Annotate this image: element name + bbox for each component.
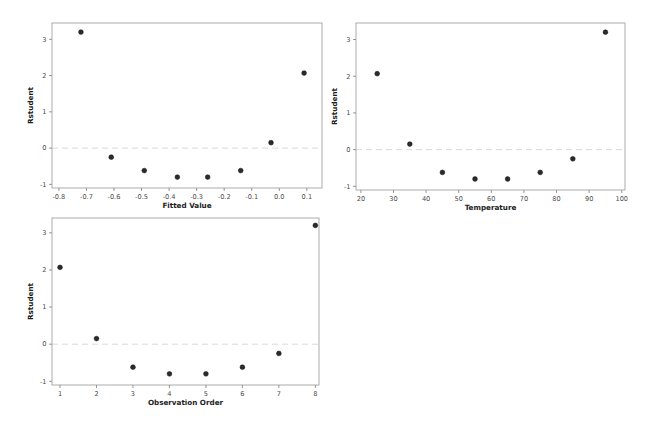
data-point <box>473 177 478 182</box>
x-tick-label: -0.6 <box>108 193 121 201</box>
rstudent-vs-temperature-plot: 2030405060708090100-10123TemperatureRstu… <box>330 23 628 212</box>
y-tick-label: 1 <box>42 108 46 116</box>
data-point <box>94 336 99 341</box>
data-point <box>276 351 281 356</box>
x-tick-label: 8 <box>313 390 317 398</box>
y-tick-label: 3 <box>346 36 350 44</box>
data-point <box>538 170 543 175</box>
x-tick-label: -0.3 <box>190 193 203 201</box>
x-tick-label: -0.4 <box>163 193 176 201</box>
x-axis-label: Temperature <box>465 203 517 212</box>
data-point <box>238 168 243 173</box>
y-tick-label: 3 <box>42 36 46 44</box>
data-point <box>131 365 136 370</box>
y-tick-label: 0 <box>42 144 46 152</box>
x-tick-label: -0.1 <box>245 193 258 201</box>
x-tick-label: 0.1 <box>302 193 313 201</box>
x-tick-label: 1 <box>58 390 62 398</box>
y-tick-label: 1 <box>42 303 46 311</box>
x-tick-label: 90 <box>585 195 593 203</box>
data-point <box>142 168 147 173</box>
scatter-plots-canvas: -0.8-0.7-0.6-0.5-0.4-0.3-0.2-0.10.00.1-1… <box>0 0 648 423</box>
plot-frame <box>356 23 625 190</box>
y-tick-label: 2 <box>42 72 46 80</box>
x-tick-label: 7 <box>277 390 281 398</box>
x-tick-label: 3 <box>131 390 135 398</box>
x-tick-label: 50 <box>455 195 463 203</box>
data-point <box>58 265 63 270</box>
x-tick-label: -0.7 <box>80 193 93 201</box>
rstudent-vs-fitted-value-plot: -0.8-0.7-0.6-0.5-0.4-0.3-0.2-0.10.00.1-1… <box>26 23 322 210</box>
data-point <box>205 175 210 180</box>
y-axis-label: Rstudent <box>26 86 35 124</box>
data-point <box>302 71 307 76</box>
data-point <box>313 223 318 228</box>
rstudent-vs-observation-order-plot: 12345678-10123Observation OrderRstudent <box>26 218 319 407</box>
x-tick-label: 0.0 <box>274 193 285 201</box>
x-tick-label: 5 <box>204 390 208 398</box>
x-tick-label: 100 <box>615 195 628 203</box>
data-point <box>570 156 575 161</box>
y-tick-label: 0 <box>42 340 46 348</box>
data-point <box>505 177 510 182</box>
data-point <box>407 142 412 147</box>
data-point <box>167 371 172 376</box>
x-tick-label: 2 <box>94 390 98 398</box>
y-axis-label: Rstudent <box>26 282 35 320</box>
x-tick-label: 60 <box>487 195 495 203</box>
plot-frame <box>52 218 319 385</box>
x-tick-label: 4 <box>167 390 171 398</box>
x-tick-label: 80 <box>552 195 560 203</box>
x-tick-label: 30 <box>389 195 397 203</box>
x-axis-label: Observation Order <box>148 398 224 407</box>
residual-diagnostics-panel: -0.8-0.7-0.6-0.5-0.4-0.3-0.2-0.10.00.1-1… <box>0 0 648 423</box>
data-point <box>440 170 445 175</box>
x-tick-label: -0.2 <box>218 193 231 201</box>
y-tick-label: 2 <box>346 73 350 81</box>
data-point <box>175 175 180 180</box>
y-tick-label: -1 <box>40 378 47 386</box>
y-tick-label: -1 <box>40 181 47 189</box>
x-tick-label: -0.5 <box>135 193 148 201</box>
data-point <box>269 140 274 145</box>
y-tick-label: 2 <box>42 266 46 274</box>
data-point <box>603 30 608 35</box>
x-axis-label: Fitted Value <box>162 201 211 210</box>
y-tick-label: 1 <box>346 109 350 117</box>
x-tick-label: 6 <box>240 390 244 398</box>
data-point <box>240 365 245 370</box>
data-point <box>109 155 114 160</box>
y-tick-label: 3 <box>42 229 46 237</box>
y-tick-label: -1 <box>344 183 351 191</box>
x-tick-label: -0.8 <box>52 193 65 201</box>
data-point <box>204 371 209 376</box>
y-axis-label: Rstudent <box>330 87 339 125</box>
x-tick-label: 20 <box>357 195 365 203</box>
data-point <box>375 71 380 76</box>
plot-frame <box>52 23 322 188</box>
y-tick-label: 0 <box>346 146 350 154</box>
x-tick-label: 70 <box>520 195 528 203</box>
data-point <box>79 30 84 35</box>
x-tick-label: 40 <box>422 195 430 203</box>
